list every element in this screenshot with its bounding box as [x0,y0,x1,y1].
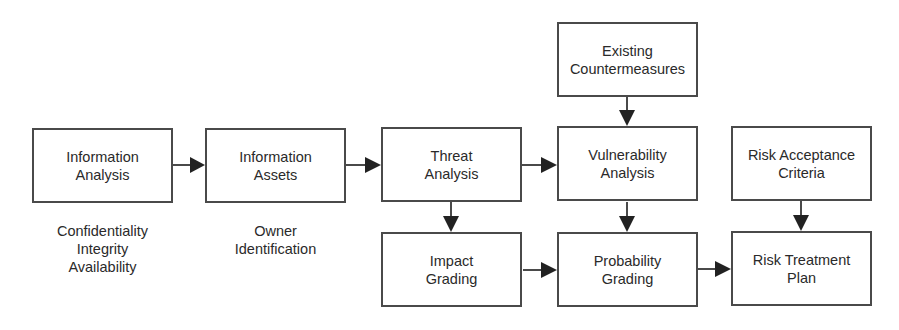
node-probability-grading: ProbabilityGrading [557,232,698,307]
arrowhead-icon [541,157,557,173]
node-label: Existing [570,42,685,60]
note-line: Integrity [32,240,173,258]
node-existing-countermeasures: ExistingCountermeasures [557,22,698,97]
node-risk-treatment-plan: Risk TreatmentPlan [731,231,872,306]
arrowhead-icon [190,157,205,173]
node-label: Vulnerability [588,146,666,164]
node-label: Countermeasures [570,60,685,78]
node-impact-grading: ImpactGrading [381,232,522,307]
node-label: Criteria [748,164,855,182]
node-label: Analysis [66,166,139,184]
node-label: Impact [426,252,478,270]
node-label: Analysis [588,164,666,182]
note-line: Identification [205,240,346,258]
arrowhead-icon [715,261,731,277]
node-label: Risk Treatment [753,251,851,269]
node-label: Analysis [425,165,479,183]
node-label: Assets [239,166,312,184]
node-threat-analysis: ThreatAnalysis [381,127,522,202]
note-line: Owner [205,222,346,240]
arrowhead-icon [619,110,635,126]
note-cia-triad: Confidentiality Integrity Availability [32,222,173,276]
arrowhead-icon [443,216,459,232]
node-label: Grading [594,270,662,288]
node-label: Plan [753,269,851,287]
node-vulnerability-analysis: VulnerabilityAnalysis [557,126,698,201]
node-label: Risk Acceptance [748,146,855,164]
node-label: Information [66,148,139,166]
node-label: Information [239,148,312,166]
arrowhead-icon [541,262,557,278]
arrowhead-icon [793,215,809,231]
arrowhead-icon [365,157,381,173]
node-label: Probability [594,252,662,270]
node-label: Grading [426,270,478,288]
arrowhead-icon [619,216,635,232]
note-owner-identification: Owner Identification [205,222,346,258]
node-risk-acceptance-criteria: Risk AcceptanceCriteria [731,126,872,201]
node-information-analysis: InformationAnalysis [32,128,173,203]
note-line: Confidentiality [32,222,173,240]
note-line: Availability [32,258,173,276]
node-information-assets: InformationAssets [205,128,346,203]
node-label: Threat [425,147,479,165]
